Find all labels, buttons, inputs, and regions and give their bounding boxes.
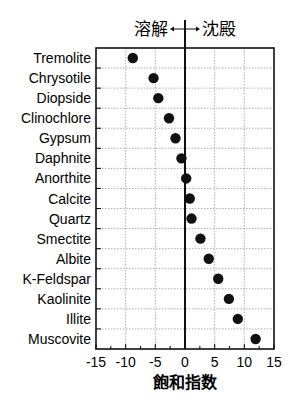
x-tick-label: -10 <box>116 354 136 370</box>
mineral-label: Clinochlore <box>21 110 91 126</box>
mineral-label: Chrysotile <box>29 70 91 86</box>
data-point <box>186 213 196 223</box>
data-point <box>185 193 195 203</box>
mineral-label: Daphnite <box>35 150 91 166</box>
x-tick-label: 15 <box>266 354 282 370</box>
mineral-label: Gypsum <box>39 130 91 146</box>
mineral-label: Diopside <box>37 90 92 106</box>
data-point <box>250 334 260 344</box>
x-tick-label: -15 <box>86 354 106 370</box>
mineral-label: K-Feldspar <box>23 271 92 287</box>
mineral-label: Anorthite <box>35 170 91 186</box>
data-point <box>195 233 205 243</box>
mineral-label: Albite <box>56 251 91 267</box>
saturation-index-chart: 溶解 沈殿 TremoliteChrysotileDiopsideClinoch… <box>0 0 298 409</box>
mineral-label: Kaolinite <box>37 291 91 307</box>
data-point <box>213 274 223 284</box>
x-tick-labels: -15-10-5051015 <box>86 354 282 370</box>
arrow-left-icon <box>170 27 174 32</box>
precipitation-label: 沈殿 <box>202 20 236 39</box>
data-point <box>170 133 180 143</box>
mineral-label: Illite <box>66 311 91 327</box>
data-point <box>153 93 163 103</box>
dissolution-label: 溶解 <box>134 20 168 39</box>
arrow-right-icon <box>196 27 200 32</box>
mineral-label: Quartz <box>49 211 91 227</box>
mineral-label: Tremolite <box>33 50 91 66</box>
x-tick-label: 5 <box>211 354 219 370</box>
x-tick-label: 0 <box>181 354 189 370</box>
data-point <box>181 173 191 183</box>
data-point <box>204 254 214 264</box>
data-point <box>176 153 186 163</box>
x-axis-title: 飽和指数 <box>152 373 218 391</box>
mineral-label: Calcite <box>48 191 91 207</box>
data-point <box>148 73 158 83</box>
x-tick-label: 10 <box>237 354 253 370</box>
data-point <box>224 294 234 304</box>
mineral-label: Smectite <box>37 231 92 247</box>
x-tick-label: -5 <box>149 354 162 370</box>
data-point <box>164 113 174 123</box>
data-point <box>128 53 138 63</box>
data-point <box>233 314 243 324</box>
mineral-labels: TremoliteChrysotileDiopsideClinochloreGy… <box>21 50 91 347</box>
data-points <box>128 53 261 344</box>
mineral-label: Muscovite <box>28 331 91 347</box>
zero-line <box>170 20 200 349</box>
